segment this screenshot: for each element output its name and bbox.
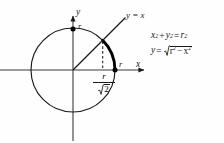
radius-label-top: r xyxy=(78,22,81,31)
eq-function-minus: − xyxy=(176,46,184,56)
fraction-numerator: r xyxy=(102,72,106,82)
fraction-label-r-over-sqrt2: r 2 xyxy=(93,72,115,95)
y-axis-label: y xyxy=(76,8,80,18)
point-top-of-circle xyxy=(71,27,76,32)
eq-circle-equals: = xyxy=(173,31,181,41)
equation-function: y = r2−x2 xyxy=(151,45,192,56)
eq-circle-plus: + xyxy=(158,31,166,41)
fraction-denominator-radicand: 2 xyxy=(104,84,110,95)
eq-function-equals: = xyxy=(155,46,163,56)
equations-block: x2 + y2 = r2 y = r2−x2 xyxy=(151,31,192,56)
eq-function-exp-2: 2 xyxy=(188,44,191,50)
radicand-content: r2−x2 xyxy=(170,46,192,57)
fraction-denominator: 2 xyxy=(98,83,110,95)
line-equation-label: y = x xyxy=(126,11,145,20)
equation-circle: x2 + y2 = r2 xyxy=(151,31,192,41)
radical-expression: r2−x2 xyxy=(164,45,192,56)
x-axis-label: x xyxy=(136,60,140,70)
figure-canvas: y x r r y = x r 2 x2 + y2 = r2 y = xyxy=(0,0,224,143)
radius-label-right: r xyxy=(119,60,122,69)
highlight-arc xyxy=(103,40,115,70)
